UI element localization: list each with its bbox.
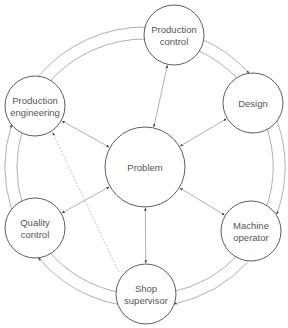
nodes-layer: ProductioncontrolDesignProductionenginee… xyxy=(5,5,283,324)
ring-edge-design-to-machine-operator xyxy=(277,121,285,214)
ring-edge-production-control-to-production-engineering xyxy=(48,39,148,84)
node-label: Design xyxy=(238,98,268,109)
spoke-edge-machine-operator xyxy=(180,188,224,215)
spoke-edge-production-engineering xyxy=(62,121,109,147)
node-label: Production xyxy=(151,24,196,35)
ring-edge-quality-control-to-production-engineering xyxy=(5,125,12,209)
node-label: engineering xyxy=(10,107,60,118)
node-label: supervisor xyxy=(124,295,168,306)
node-quality-control: Qualitycontrol xyxy=(5,198,65,258)
node-label: Problem xyxy=(127,162,162,173)
node-label: operator xyxy=(233,232,268,243)
spoke-edge-design xyxy=(180,119,226,146)
node-machine-operator: Machineoperator xyxy=(221,201,281,261)
ring-edge-shop-supervisor-to-machine-operator xyxy=(171,254,239,293)
node-label: Shop xyxy=(135,283,157,294)
spoke-edge-quality-control xyxy=(62,187,109,213)
node-label: control xyxy=(21,229,50,240)
communication-cycle-diagram: ProductioncontrolDesignProductionenginee… xyxy=(0,0,288,328)
ring-edge-quality-control-to-shop-supervisor xyxy=(48,250,121,293)
ring-edge-machine-operator-to-design xyxy=(266,125,273,210)
node-label: control xyxy=(160,36,189,47)
node-label: Machine xyxy=(233,220,269,231)
ring-edge-machine-operator-to-shop-supervisor xyxy=(174,262,248,304)
node-shop-supervisor: Shopsupervisor xyxy=(116,264,176,324)
node-problem: Problem xyxy=(105,127,185,207)
node-label: Production xyxy=(12,95,57,106)
ring-edge-production-engineering-to-quality-control xyxy=(17,128,23,205)
ring-edge-shop-supervisor-to-quality-control xyxy=(39,258,119,305)
spoke-edge-production-control xyxy=(154,65,168,127)
node-label: Quality xyxy=(20,217,50,228)
ring-edge-design-to-production-control xyxy=(197,50,240,81)
node-production-control: Productioncontrol xyxy=(144,5,204,65)
ring-edge-production-engineering-to-production-control xyxy=(39,27,148,76)
node-production-engineering: Productionengineering xyxy=(5,76,65,136)
node-design: Design xyxy=(223,73,283,133)
